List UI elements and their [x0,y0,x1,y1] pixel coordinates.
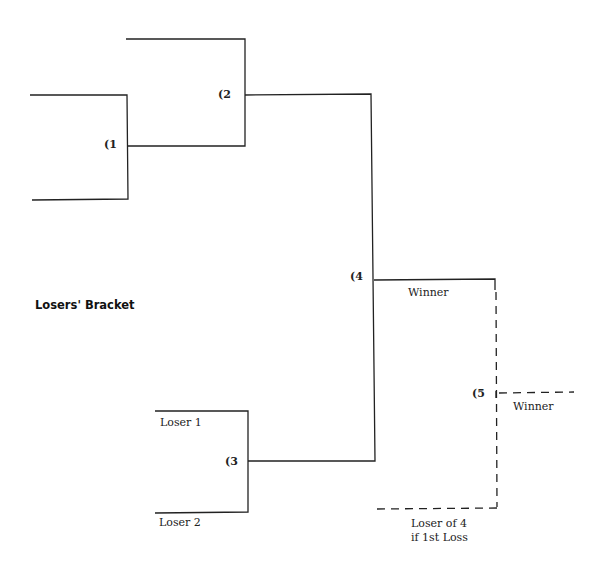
game-5-label: (5 [472,387,485,400]
if-first-loss-label: if 1st Loss [411,531,468,544]
loser-of-4-label: Loser of 4 [411,517,467,530]
game-4-label: (4 [350,270,363,283]
bracket-lines [0,0,614,574]
game-5-winner-label: Winner [513,400,554,413]
game-5-dashed-bottom [377,508,498,509]
game-5-winner-line [499,392,574,393]
game-4-winner-label: Winner [408,286,449,299]
loser-2-label: Loser 2 [159,516,201,529]
game-5-dashed-vertical [496,292,497,507]
losers-bracket-title: Losers' Bracket [35,298,135,312]
game-2-label: (2 [218,88,231,101]
game-3-label: (3 [225,455,238,468]
loser-1-label: Loser 1 [160,416,202,429]
game-1-label: (1 [104,138,117,151]
